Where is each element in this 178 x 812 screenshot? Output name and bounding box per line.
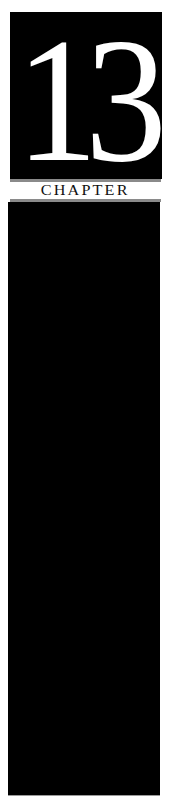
chapter-sidebar-column: [8, 202, 160, 796]
chapter-label: CHAPTER: [41, 182, 130, 199]
chapter-label-band: CHAPTER: [10, 182, 161, 199]
chapter-number-block: 13: [10, 12, 162, 179]
chapter-number: 13: [16, 20, 156, 179]
